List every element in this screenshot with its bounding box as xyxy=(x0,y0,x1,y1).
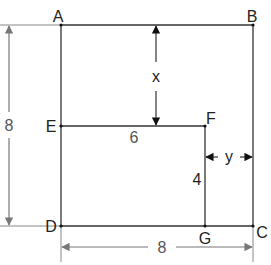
point-label-f: F xyxy=(206,110,216,127)
point-label-a: A xyxy=(53,8,64,25)
point-label-b: B xyxy=(247,8,258,25)
label-fg-length: 4 xyxy=(193,171,202,188)
point-label-g: G xyxy=(199,230,211,247)
label-bottom-width: 8 xyxy=(158,239,167,256)
dot-e xyxy=(59,124,62,127)
point-label-e: E xyxy=(46,118,57,135)
dot-g xyxy=(203,224,206,227)
label-left-height: 8 xyxy=(5,117,14,134)
label-y: y xyxy=(225,148,233,165)
dot-d xyxy=(59,224,62,227)
point-label-d: D xyxy=(45,218,57,235)
geometry-diagram: 8 8 x y 6 4 A B C D E F G xyxy=(0,0,271,265)
label-ef-length: 6 xyxy=(130,129,139,146)
label-x: x xyxy=(152,68,160,85)
point-label-c: C xyxy=(256,224,268,241)
dot-c xyxy=(251,224,254,227)
